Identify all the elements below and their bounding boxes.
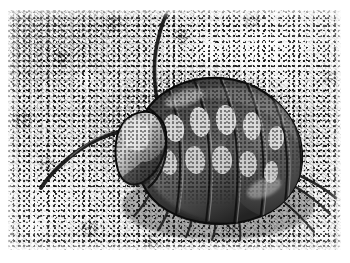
woodlouse-subject: [8, 10, 341, 250]
photograph: [8, 10, 341, 250]
screenshot-root: Black and white photograph of a woodlous…: [0, 0, 350, 263]
